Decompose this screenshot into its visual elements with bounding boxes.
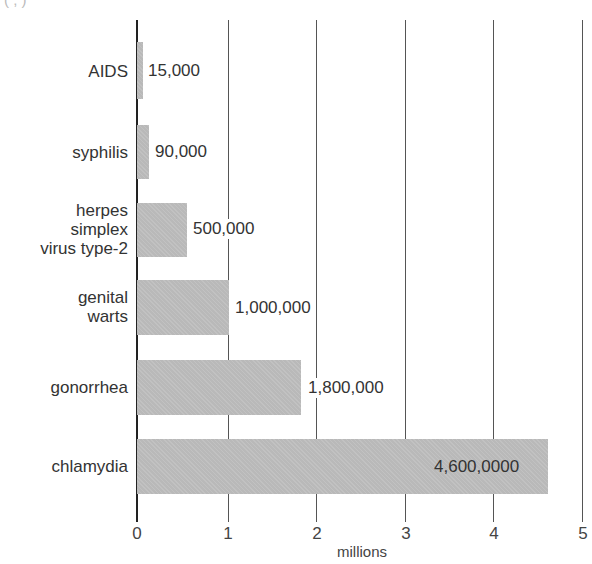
category-label-chlamydia: chlamydia (51, 457, 128, 476)
value-label-aids: 15,000 (146, 61, 202, 81)
category-label-line: genital (78, 288, 128, 307)
bar-syphilis (137, 125, 149, 179)
category-label-herpes: herpes simplex virus type-2 (40, 201, 128, 258)
bar-gonorrhea (137, 360, 301, 415)
bar-herpes (137, 203, 187, 257)
bar-genital-warts (137, 280, 229, 335)
category-label-line: virus type-2 (40, 239, 128, 258)
value-label-gonorrhea: 1,800,000 (306, 378, 386, 398)
gridline-5 (582, 20, 583, 522)
category-label-genital-warts: genital warts (78, 288, 128, 326)
bar-aids (137, 42, 143, 99)
category-label-line: herpes (40, 201, 128, 220)
category-label-syphilis: syphilis (72, 143, 128, 162)
value-label-syphilis: 90,000 (153, 142, 209, 162)
category-label-aids: AIDS (88, 62, 128, 81)
chart-caption: ( , ) (4, 0, 27, 8)
x-axis-label: millions (337, 543, 387, 560)
x-tick-2: 2 (312, 524, 321, 544)
category-label-line: simplex (40, 220, 128, 239)
x-tick-4: 4 (489, 524, 498, 544)
value-label-genital-warts: 1,000,000 (233, 298, 313, 318)
value-label-chlamydia: 4,600,0000 (432, 457, 521, 477)
x-tick-3: 3 (401, 524, 410, 544)
x-tick-5: 5 (578, 524, 587, 544)
category-label-line: warts (78, 307, 128, 326)
category-label-gonorrhea: gonorrhea (50, 378, 128, 397)
value-label-herpes: 500,000 (191, 219, 256, 239)
x-tick-1: 1 (223, 524, 232, 544)
x-tick-0: 0 (132, 524, 141, 544)
